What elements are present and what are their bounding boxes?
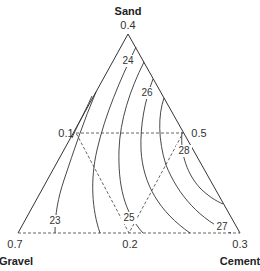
inner-label-bottom: 0.2: [122, 238, 137, 250]
axis-title-sand: Sand: [115, 5, 142, 17]
contour-label-28: 28: [178, 145, 190, 156]
vertex-value-right: 0.3: [232, 238, 247, 250]
axis-title-gravel: Gravel: [0, 255, 33, 267]
contour-28: [182, 132, 223, 204]
vertex-value-left: 0.7: [7, 238, 22, 250]
contour-label-27: 27: [216, 221, 228, 232]
contour-23b: [72, 96, 92, 138]
inner-label-right: 0.5: [191, 127, 206, 139]
contour-label-25: 25: [123, 212, 135, 223]
contour-23: [55, 92, 96, 233]
contour-label-24: 24: [122, 55, 134, 66]
vertex-value-top: 0.4: [120, 19, 135, 31]
axis-title-cement: Cement: [220, 255, 260, 267]
contour-27: [160, 98, 231, 233]
contour-label-23: 23: [49, 215, 61, 226]
ternary-chart: Sand 0.4 0.7 Gravel 0.3 Cement 0.1 0.5 0…: [0, 0, 260, 271]
contour-label-26: 26: [141, 87, 153, 98]
